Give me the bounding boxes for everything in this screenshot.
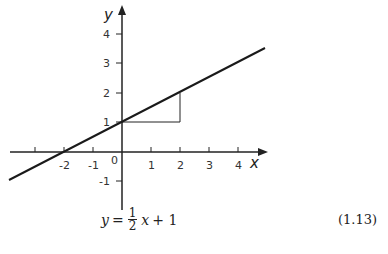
y-axis-arrow-icon xyxy=(118,5,126,15)
function-line xyxy=(9,48,265,180)
graph: -2 -1 0 1 2 3 4 x 4 3 2 1 -1 y xyxy=(0,0,388,254)
x-tick-label: 1 xyxy=(148,159,155,172)
y-axis-label: y xyxy=(103,6,114,24)
y-tick-label: 2 xyxy=(103,87,110,100)
y-tick-label: 1 xyxy=(103,116,110,129)
y-tick-label: 4 xyxy=(103,28,110,41)
equation: y = 1 2 x + 1 xyxy=(101,207,177,232)
x-tick-label: 4 xyxy=(235,159,242,172)
y-tick-label: -1 xyxy=(99,175,110,188)
equation-variable: x xyxy=(141,212,149,228)
y-tick-label: 3 xyxy=(103,57,110,70)
equation-equals: = xyxy=(112,212,124,228)
x-axis-label: x xyxy=(249,154,259,172)
equation-constant: + 1 xyxy=(152,212,177,228)
equation-number: (1.13) xyxy=(338,212,377,227)
equation-fraction: 1 2 xyxy=(128,207,138,232)
x-tick-label: 2 xyxy=(177,159,184,172)
x-tick-label: -1 xyxy=(88,159,99,172)
equation-lhs: y xyxy=(101,212,109,228)
origin-label: 0 xyxy=(111,154,118,167)
x-tick-label: 3 xyxy=(206,159,213,172)
fraction-denominator: 2 xyxy=(129,220,137,232)
x-tick-label: -2 xyxy=(59,159,70,172)
x-axis-arrow-icon xyxy=(258,148,268,156)
